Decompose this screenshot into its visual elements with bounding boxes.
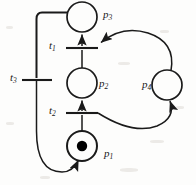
place-label-p2-base: p [99, 77, 105, 89]
petri-net-canvas [0, 0, 196, 185]
place-label-p1-base: p [104, 147, 110, 159]
place-label-p1: p1 [104, 148, 113, 159]
place-label-p4-sub: 4 [148, 83, 152, 92]
arc-t2-to-p4 [98, 101, 171, 129]
token-p1 [77, 141, 87, 151]
place-label-p2-sub: 2 [105, 82, 109, 91]
place-label-p3-base: p [103, 8, 109, 20]
place-label-p4: p4 [142, 79, 151, 90]
place-p3 [67, 2, 97, 32]
place-label-p3: p3 [103, 9, 112, 20]
place-label-p2: p2 [99, 78, 108, 89]
place-label-p4-base: p [142, 78, 148, 90]
arc-p4-to-t1 [101, 30, 172, 70]
place-label-p3-sub: 3 [109, 13, 113, 22]
place-p4 [152, 70, 182, 100]
place-p2 [67, 68, 97, 98]
transition-label-t1-sub: 1 [52, 44, 56, 53]
petri-net-figure: p3 p2 p1 p4 t1 t2 t3 [0, 0, 196, 185]
transition-label-t2: t2 [49, 105, 56, 116]
transition-label-t3-sub: 3 [13, 76, 17, 85]
transition-label-t3: t3 [10, 72, 17, 83]
transition-label-t1: t1 [49, 40, 56, 51]
transition-label-t2-sub: 2 [52, 109, 56, 118]
place-label-p1-sub: 1 [110, 152, 114, 161]
